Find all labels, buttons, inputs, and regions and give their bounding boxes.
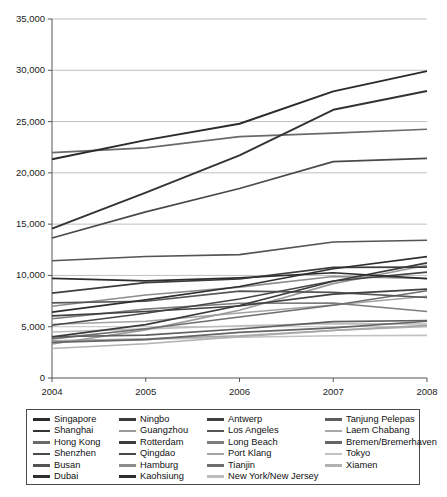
- series-line: [52, 158, 427, 238]
- legend-item-label: Ningbo: [140, 415, 169, 424]
- legend-swatch-icon: [207, 430, 224, 433]
- legend-item[interactable]: Xiamen: [325, 460, 417, 471]
- legend-item[interactable]: Ningbo: [119, 414, 207, 425]
- legend-item-label: Long Beach: [228, 438, 278, 447]
- legend-item[interactable]: Antwerp: [207, 414, 325, 425]
- legend-swatch-icon: [325, 453, 342, 456]
- legend-swatch-icon: [325, 464, 342, 467]
- legend-item-label: Shanghai: [54, 426, 93, 435]
- legend-item-label: Qingdao: [140, 449, 175, 458]
- series-line: [52, 129, 427, 152]
- legend-swatch-icon: [207, 475, 224, 478]
- legend-swatch-icon: [33, 430, 50, 433]
- legend-item[interactable]: Singapore: [33, 414, 119, 425]
- legend-swatch-icon: [33, 475, 50, 478]
- legend-item-label: Singapore: [54, 415, 96, 424]
- y-tick-label: 0: [40, 373, 45, 383]
- legend-item-label: Dubai: [54, 472, 78, 481]
- legend-swatch-icon: [33, 441, 50, 444]
- x-tick-label: 2004: [28, 387, 76, 397]
- y-tick-label: 20,000: [16, 168, 45, 178]
- legend-item-label: Xiamen: [346, 461, 378, 470]
- legend-item[interactable]: Busan: [33, 460, 119, 471]
- legend-swatch-icon: [325, 418, 342, 421]
- legend-item[interactable]: Shanghai: [33, 425, 119, 436]
- legend-swatch-icon: [33, 464, 50, 467]
- y-tick-label: 5,000: [21, 322, 45, 332]
- legend-item-label: Bremen/Bremerhaven: [346, 438, 437, 447]
- series-layer: [52, 71, 427, 348]
- legend-swatch-icon: [119, 441, 136, 444]
- legend-item-label: Los Angeles: [228, 426, 279, 435]
- series-line: [52, 71, 427, 159]
- legend-item-label: Tanjung Pelepas: [346, 415, 415, 424]
- legend-column: Tanjung PelepasLaem ChabangBremen/Bremer…: [325, 414, 417, 482]
- y-tick-label: 30,000: [16, 65, 45, 75]
- legend-swatch-icon: [207, 441, 224, 444]
- legend-swatch-icon: [119, 475, 136, 478]
- legend-item[interactable]: Qingdao: [119, 448, 207, 459]
- legend-item-label: Antwerp: [228, 415, 262, 424]
- x-tick-label: 2007: [309, 387, 357, 397]
- legend-swatch-icon: [207, 464, 224, 467]
- legend-swatch-icon: [119, 418, 136, 421]
- legend-item-label: Laem Chabang: [346, 426, 410, 435]
- legend-item[interactable]: Long Beach: [207, 437, 325, 448]
- legend-grid: SingaporeShanghaiHong KongShenzhenBusanD…: [33, 414, 417, 482]
- legend-item-label: Tokyo: [346, 449, 370, 458]
- line-chart: 05,00010,00015,00020,00025,00030,00035,0…: [0, 0, 447, 400]
- legend-item-label: Hong Kong: [54, 438, 101, 447]
- legend-item[interactable]: Port Klang: [207, 448, 325, 459]
- legend-item-label: Port Klang: [228, 449, 271, 458]
- x-tick-label: 2005: [122, 387, 170, 397]
- chart-page: 05,00010,00015,00020,00025,00030,00035,0…: [0, 0, 447, 497]
- x-tick-label: 2006: [216, 387, 264, 397]
- y-tick-label: 35,000: [16, 14, 45, 24]
- legend-item-label: Guangzhou: [140, 426, 188, 435]
- legend-item-label: Shenzhen: [54, 449, 96, 458]
- legend-swatch-icon: [325, 430, 342, 433]
- legend-column: NingboGuangzhouRotterdamQingdaoHamburgKa…: [119, 414, 207, 482]
- legend-item[interactable]: Tianjin: [207, 460, 325, 471]
- legend-item-label: New York/New Jersey: [228, 472, 318, 481]
- legend-item[interactable]: Shenzhen: [33, 448, 119, 459]
- legend-item-label: Kaohsiung: [140, 472, 184, 481]
- legend-item[interactable]: Laem Chabang: [325, 425, 417, 436]
- chart-canvas: [0, 0, 447, 400]
- legend-item[interactable]: Tokyo: [325, 448, 417, 459]
- legend-swatch-icon: [119, 453, 136, 456]
- legend-item[interactable]: Tanjung Pelepas: [325, 414, 417, 425]
- legend-item-label: Rotterdam: [140, 438, 183, 447]
- legend-swatch-icon: [119, 464, 136, 467]
- legend-item-label: Busan: [54, 461, 80, 470]
- legend-item-label: Hamburg: [140, 461, 178, 470]
- legend-swatch-icon: [207, 453, 224, 456]
- legend-column: AntwerpLos AngelesLong BeachPort KlangTi…: [207, 414, 325, 482]
- x-tick-label: 2008: [403, 387, 447, 397]
- legend-swatch-icon: [325, 441, 342, 444]
- legend-swatch-icon: [33, 453, 50, 456]
- series-line: [52, 240, 427, 261]
- axis-ticks: [48, 19, 427, 382]
- legend-item[interactable]: Dubai: [33, 471, 119, 482]
- legend-item[interactable]: Rotterdam: [119, 437, 207, 448]
- legend-column: SingaporeShanghaiHong KongShenzhenBusanD…: [33, 414, 119, 482]
- legend-item-label: Tianjin: [228, 461, 255, 470]
- legend-item[interactable]: Kaohsiung: [119, 471, 207, 482]
- legend-swatch-icon: [207, 418, 224, 421]
- y-tick-label: 25,000: [16, 117, 45, 127]
- legend-item[interactable]: Guangzhou: [119, 425, 207, 436]
- legend: SingaporeShanghaiHong KongShenzhenBusanD…: [26, 409, 420, 485]
- legend-swatch-icon: [33, 418, 50, 421]
- y-tick-label: 15,000: [16, 219, 45, 229]
- legend-item[interactable]: Hamburg: [119, 460, 207, 471]
- legend-swatch-icon: [119, 430, 136, 433]
- legend-item[interactable]: New York/New Jersey: [207, 471, 325, 482]
- legend-item[interactable]: Bremen/Bremerhaven: [325, 437, 417, 448]
- legend-item[interactable]: Hong Kong: [33, 437, 119, 448]
- y-tick-label: 10,000: [16, 270, 45, 280]
- legend-item[interactable]: Los Angeles: [207, 425, 325, 436]
